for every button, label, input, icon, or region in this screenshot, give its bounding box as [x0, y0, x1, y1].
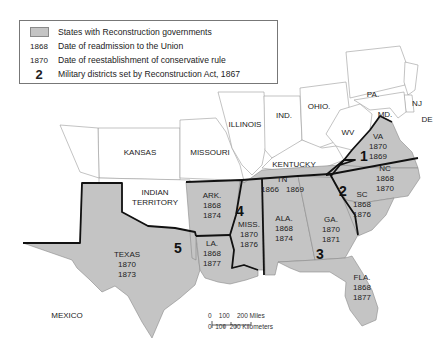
scale-km: 0 100 200 Kilometers: [208, 323, 273, 330]
legend-row-district: 2 Military districts set by Reconstructi…: [20, 67, 240, 81]
svg-text:1869: 1869: [286, 185, 304, 194]
legend-label: Date of readmission to the Union: [58, 41, 183, 51]
svg-text:1870: 1870: [118, 260, 136, 269]
label-missouri: MISSOURI: [190, 148, 230, 157]
svg-text:1876: 1876: [353, 210, 371, 219]
label-delaware: DE: [421, 115, 432, 124]
svg-text:1877: 1877: [203, 259, 221, 268]
svg-text:1868: 1868: [203, 249, 221, 258]
legend-key: 1870: [30, 56, 48, 65]
scale-miles: 0 100 200 Miles: [208, 312, 273, 319]
district-4: 4: [236, 203, 244, 219]
svg-text:LA.: LA.: [206, 239, 218, 248]
label-kansas: KANSAS: [124, 148, 156, 157]
label-ohio: OHIO.: [308, 102, 331, 111]
legend-label: Date of reestablishment of conservative …: [58, 55, 226, 65]
svg-text:1870: 1870: [369, 142, 387, 151]
legend-label: Military districts set by Reconstruction…: [58, 69, 240, 79]
svg-text:GA.: GA.: [324, 215, 338, 224]
legend-row-conservative: 1870 Date of reestablishment of conserva…: [20, 53, 226, 67]
label-ga: GA. 1870 1871: [322, 215, 340, 244]
svg-text:MISS.: MISS.: [238, 220, 260, 229]
district-3: 3: [316, 246, 324, 262]
label-kentucky: KENTUCKY: [272, 160, 316, 169]
svg-text:TEXAS: TEXAS: [114, 250, 140, 259]
svg-text:1874: 1874: [203, 211, 221, 220]
district-5: 5: [174, 240, 182, 256]
label-new-jersey: NJ: [412, 99, 422, 108]
svg-text:1870: 1870: [240, 230, 258, 239]
label-ala: ALA. 1868 1874: [275, 214, 293, 243]
legend-row-readmission: 1868 Date of readmission to the Union: [20, 39, 183, 53]
label-ark: ARK. 1868 1874: [203, 191, 222, 220]
svg-text:1869: 1869: [369, 152, 387, 161]
svg-text:1868: 1868: [275, 224, 293, 233]
svg-text:VA: VA: [373, 132, 384, 141]
northern-territory: [60, 125, 99, 178]
legend-key: 2: [35, 67, 42, 82]
legend-row-reconstruction: States with Reconstruction governments: [20, 25, 212, 39]
district-1: 1: [360, 148, 368, 164]
legend-swatch: [30, 27, 49, 37]
svg-text:1876: 1876: [240, 240, 258, 249]
label-maryland: MD.: [378, 110, 393, 119]
svg-text:1868: 1868: [353, 283, 371, 292]
svg-text:1868: 1868: [353, 200, 371, 209]
district-2: 2: [339, 183, 347, 199]
svg-text:1868: 1868: [203, 201, 221, 210]
label-illinois: ILLINOIS: [229, 120, 262, 129]
svg-text:SC: SC: [356, 190, 367, 199]
svg-text:1877: 1877: [353, 293, 371, 302]
svg-text:1868: 1868: [376, 174, 394, 183]
svg-text:1870: 1870: [322, 225, 340, 234]
state-new-jersey: [404, 62, 418, 95]
svg-text:1866: 1866: [261, 185, 279, 194]
label-fla: FLA. 1868 1877: [353, 273, 371, 302]
label-miss: MISS. 1870 1876: [238, 220, 260, 249]
label-indian: INDIAN: [141, 188, 168, 197]
svg-text:FLA.: FLA.: [354, 273, 371, 282]
label-indiana: IND.: [276, 111, 292, 120]
label-pennsylvania: PA.: [367, 90, 379, 99]
label-mexico: MEXICO: [51, 311, 83, 320]
svg-text:1874: 1874: [275, 234, 293, 243]
svg-text:1870: 1870: [376, 184, 394, 193]
label-west-virginia: WV: [342, 128, 356, 137]
svg-text:ALA.: ALA.: [275, 214, 292, 223]
svg-text:1871: 1871: [322, 235, 340, 244]
svg-text:1873: 1873: [118, 270, 136, 279]
svg-text:ARK.: ARK.: [203, 191, 222, 200]
legend-key: 1868: [30, 42, 48, 51]
svg-text:TN: TN: [277, 175, 288, 184]
map-legend: States with Reconstruction governments 1…: [19, 20, 278, 84]
legend-label: States with Reconstruction governments: [58, 27, 212, 37]
scale-labels: 0 100 200 Miles 0 100 200 Kilometers: [208, 312, 273, 330]
district-4-south-border: [196, 235, 230, 236]
label-territory: TERRITORY: [132, 198, 179, 207]
svg-text:NC: NC: [379, 164, 391, 173]
